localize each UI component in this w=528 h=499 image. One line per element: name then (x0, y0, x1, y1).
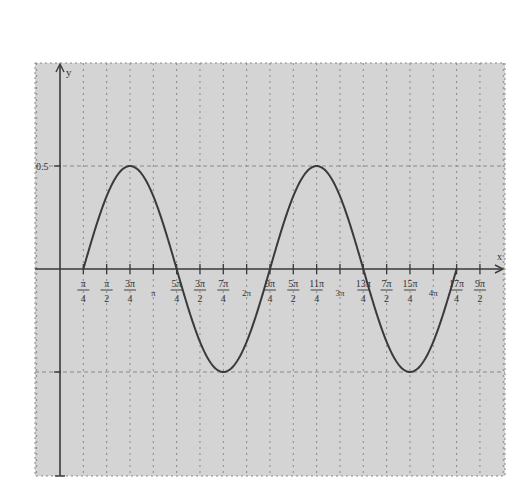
x-tick-label: 15π (402, 278, 417, 289)
x-tick-label: 9π (475, 278, 485, 289)
x-tick-label: 3π (125, 278, 135, 289)
x-tick-label: 7π (382, 278, 392, 289)
x-tick-label: 3π (335, 288, 345, 298)
x-tick-label: π (81, 278, 86, 289)
chart: π4π23π4π5π43π27π42π9π45π211π43π13π47π215… (0, 0, 528, 499)
svg-text:4: 4 (454, 293, 459, 304)
svg-text:4: 4 (81, 293, 86, 304)
svg-text:2: 2 (384, 293, 389, 304)
svg-text:4: 4 (407, 293, 412, 304)
x-tick-label: π (104, 278, 109, 289)
y-tick-label-0.5: 0.5 (36, 161, 49, 172)
svg-text:4: 4 (267, 293, 272, 304)
svg-text:4: 4 (361, 293, 366, 304)
svg-text:2: 2 (477, 293, 482, 304)
x-axis-label: x (497, 251, 502, 262)
svg-text:2: 2 (291, 293, 296, 304)
x-tick-label: π (151, 288, 156, 298)
svg-text:4: 4 (314, 293, 319, 304)
svg-text:4: 4 (174, 293, 179, 304)
x-tick-label: 11π (309, 278, 324, 289)
svg-text:4: 4 (221, 293, 226, 304)
x-tick-label: 5π (288, 278, 298, 289)
x-tick-label: 7π (218, 278, 228, 289)
svg-text:2: 2 (197, 293, 202, 304)
svg-text:2: 2 (104, 293, 109, 304)
svg-text:4: 4 (127, 293, 132, 304)
x-tick-label: 3π (195, 278, 205, 289)
y-axis-label: y (66, 66, 72, 78)
x-tick-label: 4π (429, 288, 439, 298)
x-tick-label: 2π (242, 288, 252, 298)
